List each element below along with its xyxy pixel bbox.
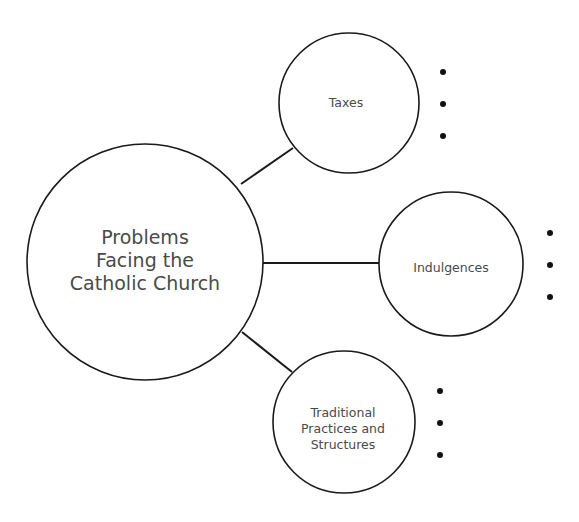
central-label-line-2: Facing the [96, 249, 194, 271]
taxes-label: Taxes [328, 95, 363, 110]
indulgences-bullets [547, 230, 553, 300]
bullet-icon [440, 69, 446, 75]
bullet-icon [440, 101, 446, 107]
node-indulgences: Indulgences [379, 192, 523, 336]
indulgences-label: Indulgences [413, 260, 489, 275]
central-node: Problems Facing the Catholic Church [27, 144, 263, 380]
concept-map: Problems Facing the Catholic Church Taxe… [0, 0, 579, 522]
node-taxes: Taxes [279, 33, 419, 173]
traditional-label-line-1: Traditional [309, 405, 375, 420]
traditional-label-line-3: Structures [311, 437, 376, 452]
bullet-icon [547, 230, 553, 236]
traditional-label-line-2: Practices and [301, 421, 385, 436]
connector-traditional [242, 332, 292, 372]
connector-taxes [241, 148, 293, 184]
bullet-icon [547, 262, 553, 268]
central-label-line-1: Problems [101, 226, 189, 248]
bullet-icon [437, 420, 443, 426]
bullet-icon [437, 452, 443, 458]
taxes-bullets [440, 69, 446, 139]
bullet-icon [440, 133, 446, 139]
traditional-bullets [437, 388, 443, 458]
bullet-icon [437, 388, 443, 394]
bullet-icon [547, 294, 553, 300]
node-traditional-practices: Traditional Practices and Structures [273, 351, 415, 493]
central-label-line-3: Catholic Church [70, 272, 220, 294]
